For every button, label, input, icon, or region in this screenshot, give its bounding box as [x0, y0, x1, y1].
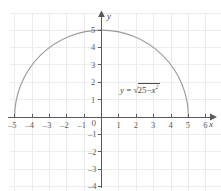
y-tick-label-4: 4	[91, 43, 95, 52]
y-tick-label-2: 2	[91, 78, 95, 87]
equation-annotation: y = √25−x2	[120, 83, 160, 95]
radicand-exponent: 2	[156, 84, 159, 90]
x-tick-label--3: –3	[43, 121, 52, 130]
x-tick-label-1: 1	[116, 121, 120, 130]
y-tick-label--2: –2	[88, 148, 97, 157]
y-tick-label--3: –3	[88, 165, 97, 174]
x-axis-ticks	[15, 114, 206, 118]
x-tick-label-4: 4	[169, 121, 173, 130]
x-tick-label--1: –1	[78, 121, 87, 130]
x-tick-label-6: 6	[203, 121, 207, 130]
x-tick-label--5: –5	[8, 121, 17, 130]
y-tick-label-5: 5	[91, 26, 95, 35]
x-tick-label-2: 2	[134, 121, 138, 130]
radicand-constant: 25	[138, 85, 147, 95]
x-axis-label: x	[209, 120, 213, 129]
y-tick-label--4: –4	[88, 182, 97, 191]
y-axis-label: y	[107, 12, 111, 21]
y-axis-ticks	[98, 30, 102, 186]
semicircle-plot	[0, 0, 221, 191]
equation-equals: =	[126, 85, 131, 95]
y-tick-label--1: –1	[88, 130, 97, 139]
y-tick-label-3: 3	[91, 61, 95, 70]
origin-label: 0	[92, 119, 97, 128]
y-axis-arrow-icon	[98, 11, 105, 18]
radicand: 25−x2	[138, 83, 160, 95]
y-tick-label-1: 1	[91, 96, 95, 105]
graph-figure: –5 –4 –3 –2 –1 1 2 3 4 5 6 0 5 4 3 2 1 –…	[0, 0, 221, 191]
x-tick-label--4: –4	[26, 121, 35, 130]
x-tick-label-3: 3	[151, 121, 155, 130]
x-tick-label-5: 5	[186, 121, 190, 130]
equation-lhs: y	[120, 85, 124, 95]
x-tick-label--2: –2	[60, 121, 69, 130]
grid-lines	[10, 13, 221, 191]
